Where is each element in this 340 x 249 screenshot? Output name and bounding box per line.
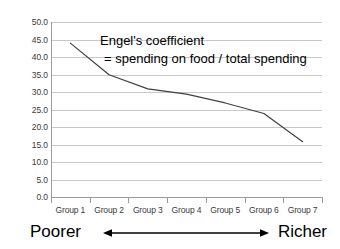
y-axis-tick-label: 45.0 [4,36,48,45]
chart-container: 50.0 45.0 40.0 35.0 30.0 25.0 20.0 15.0 … [0,0,340,249]
y-axis-tick-label: 30.0 [4,88,48,97]
x-axis-category-label: Group 6 [245,205,284,215]
poorer-label: Poorer [30,221,81,243]
x-axis-category-label: Group 1 [51,205,90,215]
x-axis-category-label: Group 3 [128,205,167,215]
y-axis-tick-label: 35.0 [4,71,48,80]
richer-label: Richer [278,221,327,243]
x-axis-tick [322,197,323,203]
y-axis-tick-label: 25.0 [4,106,48,115]
wealth-direction-bar: Poorer Richer [0,219,340,249]
engel-coefficient-chart: 50.0 45.0 40.0 35.0 30.0 25.0 20.0 15.0 … [0,0,340,220]
x-axis-category-label: Group 4 [167,205,206,215]
x-axis-category-label: Group 5 [206,205,245,215]
y-axis-tick-label: 20.0 [4,123,48,132]
y-axis-tick-label: 40.0 [4,53,48,62]
y-axis-tick-label: 10.0 [4,158,48,167]
annotation-line-1: Engel's coefficient [100,32,307,50]
y-axis-tick-label: 15.0 [4,141,48,150]
y-axis-tick-label: 50.0 [4,18,48,27]
annotation-line-2: = spending on food / total spending [100,50,307,68]
y-axis-labels: 50.0 45.0 40.0 35.0 30.0 25.0 20.0 15.0 … [0,0,48,220]
chart-annotation: Engel's coefficient = spending on food /… [100,32,307,68]
double-headed-arrow-icon [103,227,269,239]
y-axis-tick-label: 5.0 [4,176,48,185]
y-axis-tick-label: 0.0 [4,193,48,202]
x-axis-category-label: Group 2 [90,205,129,215]
x-axis-category-label: Group 7 [283,205,322,215]
